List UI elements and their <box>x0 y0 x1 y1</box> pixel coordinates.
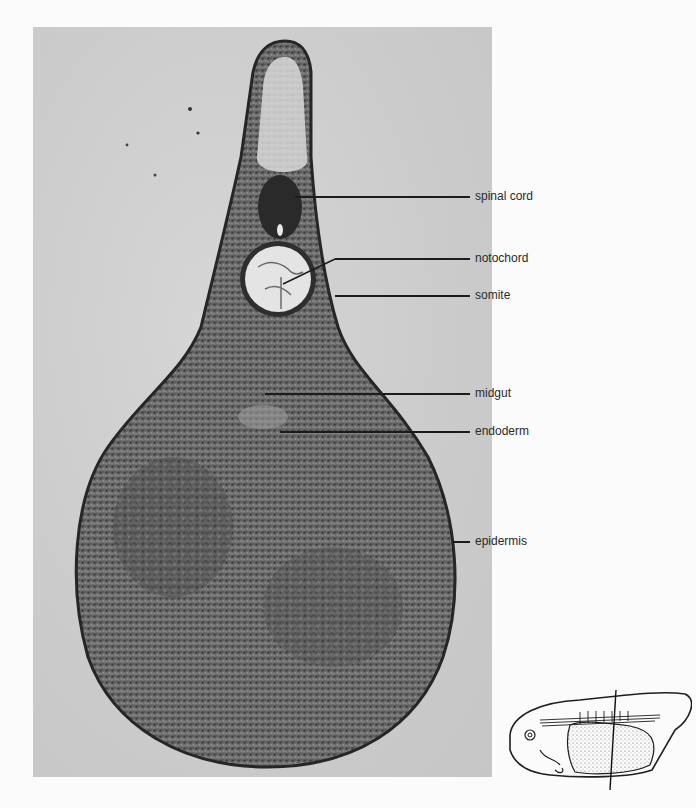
embryo-section-image <box>33 27 492 777</box>
micrograph-panel <box>33 27 492 777</box>
label-midgut: midgut <box>475 386 511 400</box>
epidermis-leader <box>453 541 470 543</box>
spinal-cord-leader <box>295 196 470 198</box>
label-endoderm: endoderm <box>475 424 529 438</box>
label-spinal-cord: spinal cord <box>475 189 533 203</box>
notochord-leader <box>335 258 470 260</box>
endoderm-leader <box>280 431 470 433</box>
somite-leader <box>335 295 470 297</box>
embryo-orientation-inset <box>500 690 692 790</box>
label-notochord: notochord <box>475 251 528 265</box>
midgut-leader <box>265 393 470 395</box>
label-somite: somite <box>475 288 510 302</box>
label-epidermis: epidermis <box>475 534 527 548</box>
